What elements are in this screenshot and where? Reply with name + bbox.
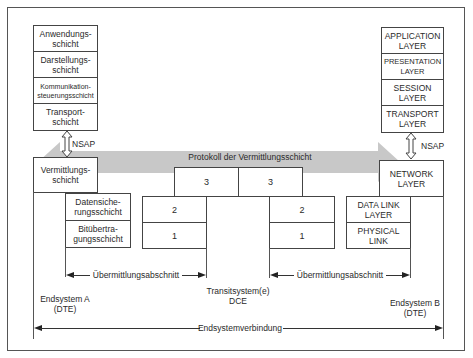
endsystem-b-caption: Endsystem B (DTE) bbox=[380, 298, 450, 318]
right-presentation-layer: PRESENTATION LAYER bbox=[381, 53, 444, 80]
left-section-line-h2 bbox=[182, 275, 199, 276]
right-nsap-arrow-icon bbox=[404, 132, 418, 160]
transit-right-layer-1: 1 bbox=[269, 222, 335, 249]
right-section-label: Übermittlungsabschnitt bbox=[294, 270, 386, 280]
endsystem-a-caption: Endsystem A (DTE) bbox=[30, 294, 100, 314]
left-presentation-layer: Darstellungs- schicht bbox=[33, 51, 98, 78]
right-section-line-h1 bbox=[276, 275, 294, 276]
transit-left-line bbox=[206, 248, 207, 278]
right-transport-layer: TRANSPORT LAYER bbox=[381, 105, 444, 133]
left-data-link-layer: Datensiche- rungsschicht bbox=[65, 193, 131, 221]
transit-right-layer-2: 2 bbox=[269, 196, 335, 223]
transit-network-box-left: 3 bbox=[174, 167, 239, 197]
end-to-end-arrowhead-right bbox=[435, 325, 443, 331]
transit-system-caption: Transitsystem(e) DCE bbox=[198, 286, 278, 306]
left-physical-layer: Bitübertra- gungsschicht bbox=[65, 220, 131, 248]
transit-left-layer-2: 2 bbox=[142, 196, 207, 223]
left-transport-layer: Transport- schicht bbox=[33, 103, 98, 131]
end-to-end-line-h2 bbox=[283, 328, 435, 329]
left-system-line bbox=[33, 192, 34, 339]
end-to-end-line-h1 bbox=[40, 328, 200, 329]
left-nsap-label: NSAP bbox=[72, 139, 95, 149]
left-application-layer: Anwendungs- schicht bbox=[33, 25, 98, 52]
right-physical-layer: PHYSICAL LINK bbox=[346, 222, 411, 249]
right-data-link-layer: DATA LINK LAYER bbox=[346, 196, 411, 223]
end-to-end-label: Endsystemverbindung bbox=[196, 323, 284, 333]
right-session-layer: SESSION LAYER bbox=[381, 79, 444, 106]
right-section-arrowhead-right bbox=[402, 272, 410, 278]
protocol-label: Protokoll der Vermittlungsschicht bbox=[150, 152, 350, 162]
transit-left-layer-1: 1 bbox=[142, 222, 207, 249]
right-section-line bbox=[410, 248, 411, 278]
right-application-layer: APPLICATION LAYER bbox=[381, 27, 444, 54]
right-network-layer: NETWORK LAYER bbox=[379, 160, 444, 197]
left-session-layer: Kommunikation- steuerungsschicht bbox=[33, 77, 98, 104]
left-section-arrowhead-right bbox=[198, 272, 206, 278]
right-nsap-label: NSAP bbox=[421, 141, 444, 151]
right-section-line-h2 bbox=[386, 275, 403, 276]
left-section-line-h1 bbox=[72, 275, 90, 276]
left-section-label: Übermittlungsabschnitt bbox=[90, 270, 182, 280]
left-network-layer: Vermittlungs- schicht bbox=[33, 157, 98, 193]
transit-network-box-right: 3 bbox=[238, 167, 303, 197]
